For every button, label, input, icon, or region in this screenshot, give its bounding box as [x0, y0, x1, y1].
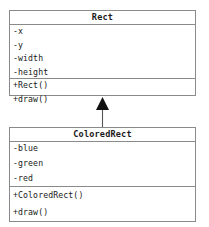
uml-attribute-row: -y — [10, 39, 195, 53]
generalization-connector — [94, 95, 111, 128]
uml-attributes-compartment-rect: -x -y -width -height — [10, 25, 195, 79]
solid-triangle-arrowhead — [96, 97, 109, 110]
uml-method-row: +draw() — [10, 204, 195, 221]
uml-attribute-row: -height — [10, 66, 195, 80]
uml-method-row: +ColoredRect() — [10, 187, 195, 204]
uml-attribute-row: -width — [10, 52, 195, 66]
uml-class-name-rect: Rect — [10, 11, 195, 25]
uml-class-diagram-canvas: Rect -x -y -width -height +Rect() +draw(… — [0, 0, 209, 227]
uml-method-row: +Rect() — [10, 79, 195, 93]
uml-attributes-compartment-coloredrect: -blue -green -red — [10, 142, 195, 187]
uml-attribute-row: -blue — [10, 142, 195, 157]
uml-methods-compartment-coloredrect: +ColoredRect() +draw() — [10, 187, 195, 221]
uml-class-coloredrect[interactable]: ColoredRect -blue -green -red +ColoredRe… — [9, 127, 196, 222]
generalization-arrow-icon — [94, 95, 111, 128]
uml-attribute-row: -green — [10, 157, 195, 172]
uml-attribute-row: -red — [10, 172, 195, 187]
uml-attribute-row: -x — [10, 25, 195, 39]
uml-class-rect[interactable]: Rect -x -y -width -height +Rect() +draw(… — [9, 10, 196, 96]
uml-class-name-coloredrect: ColoredRect — [10, 128, 195, 142]
